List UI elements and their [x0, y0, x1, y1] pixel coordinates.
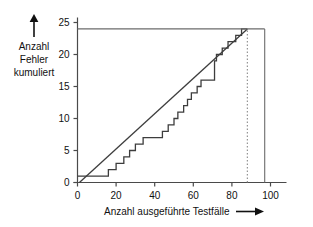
y-axis-tick-label: 10 — [58, 113, 70, 124]
x-axis-arrow-icon — [236, 206, 264, 217]
ideal-reference-line — [79, 29, 247, 183]
chart-figure: Anzahl Fehler kumuliert 0510152025020406… — [0, 0, 313, 227]
x-axis-tick-label: 40 — [149, 190, 161, 201]
x-axis-label: Anzahl ausgeführte Testfälle — [104, 206, 264, 217]
x-axis-tick-label: 100 — [262, 190, 279, 201]
y-axis-label: Anzahl Fehler kumuliert — [6, 14, 62, 79]
y-axis-tick-label: 5 — [64, 145, 70, 156]
y-axis-label-line-3: kumuliert — [6, 66, 62, 79]
x-axis-tick-label: 80 — [226, 190, 238, 201]
y-axis-label-line-2: Fehler — [6, 53, 62, 66]
y-axis-tick-label: 15 — [58, 81, 70, 92]
y-axis-label-line-1: Anzahl — [6, 40, 62, 53]
x-axis-tick-label: 60 — [188, 190, 200, 201]
cumulative-defects-step-curve — [78, 29, 248, 176]
y-axis-arrow-icon — [6, 14, 62, 38]
x-axis-tick-label: 0 — [75, 190, 81, 201]
x-axis-tick-label: 20 — [111, 190, 123, 201]
x-axis-label-text: Anzahl ausgeführte Testfälle — [104, 206, 229, 217]
y-axis-tick-label: 0 — [64, 177, 70, 188]
